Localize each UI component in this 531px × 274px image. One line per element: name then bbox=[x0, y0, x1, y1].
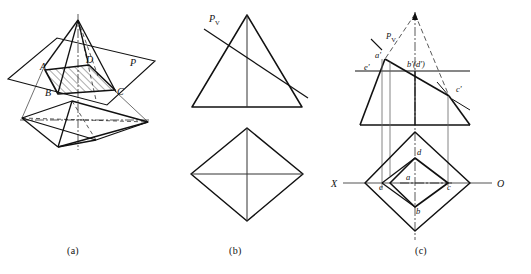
label-c-prime: c' bbox=[456, 84, 462, 94]
label-point-d: d bbox=[417, 147, 422, 157]
label-point-c: c bbox=[447, 182, 451, 192]
label-point-e: e bbox=[379, 182, 383, 192]
caption-panel-b: (b) bbox=[229, 245, 242, 256]
label-a-prime: a' bbox=[375, 50, 381, 60]
label-e-prime: e' bbox=[364, 62, 370, 72]
label-pv-c: PV bbox=[385, 31, 396, 43]
label-point-a: a bbox=[406, 172, 410, 182]
apex-arrow-head bbox=[412, 12, 418, 20]
label-axis-x: X bbox=[330, 178, 338, 189]
label-point-b: b bbox=[416, 206, 420, 216]
label-b-d-prime: b'(d') bbox=[407, 59, 425, 69]
caption-panel-a: (a) bbox=[67, 245, 79, 256]
panel-c-solution: PV a' e' b'(d') c' X O d a e c b bbox=[0, 0, 531, 274]
panel-c-labels: PV a' e' b'(d') c' X O d a e c b bbox=[330, 31, 504, 216]
trace-pointer-c-prime bbox=[437, 82, 470, 110]
figure-root: A D P B C PV bbox=[0, 0, 531, 274]
removed-apex-dashed bbox=[385, 14, 449, 96]
label-axis-o: O bbox=[497, 178, 504, 189]
caption-panel-c: (c) bbox=[415, 245, 427, 256]
